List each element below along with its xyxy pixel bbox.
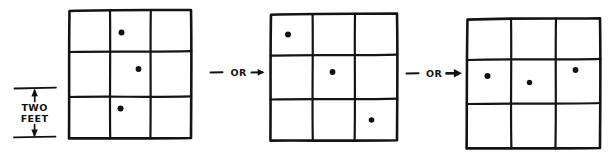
dimension-arrow-up-head <box>31 89 38 97</box>
grid-3-dot-middle-left <box>485 73 491 79</box>
grid-2-dot-center <box>330 69 336 75</box>
grid-3-lines <box>467 18 601 148</box>
grid-3-dot-middle-right <box>573 67 579 73</box>
connector-1-arrow-head <box>258 69 265 76</box>
grid-1-dot-top-middle <box>119 30 125 36</box>
dimension-label-line1: TWO <box>21 102 47 113</box>
grid-1-outer-border <box>69 10 191 138</box>
grid-1-dots <box>118 30 142 112</box>
grid-3 <box>467 18 601 148</box>
dimension-arrow-down-icon <box>31 125 38 138</box>
dimension-label-line2: FEET <box>21 113 49 124</box>
dimension-annotation: TWO FEET <box>14 88 56 138</box>
grid-1-dot-center <box>136 66 142 72</box>
grid-1-hline-1 <box>69 51 191 52</box>
grid-2-hline-2 <box>271 99 398 100</box>
diagram-canvas: TWO FEET OR <box>0 0 614 163</box>
connector-2-label: OR <box>426 68 442 79</box>
grid-1-hline-2 <box>69 96 191 97</box>
grid-2-dot-bottom-right <box>369 117 375 123</box>
grid-3-outer-border <box>467 18 601 148</box>
grid-1 <box>69 10 191 138</box>
grid-3-dot-center <box>527 80 532 85</box>
diagram-illustration: TWO FEET OR <box>0 0 614 163</box>
connector-1-label: OR <box>231 67 247 78</box>
grid-3-dots <box>485 67 579 85</box>
dimension-bottom-tick <box>14 137 56 138</box>
grid-2 <box>270 14 397 141</box>
grid-3-vline-2 <box>555 18 556 148</box>
connector-1-arrow-right-icon <box>252 69 265 76</box>
grid-1-dot-bottom-middle <box>118 106 124 112</box>
dimension-arrow-up-icon <box>31 89 38 102</box>
connector-2-arrow-right-icon <box>447 69 463 78</box>
grid-3-hline-2 <box>467 103 600 104</box>
connector-1: OR <box>211 67 265 78</box>
dimension-arrow-down-head <box>31 129 38 137</box>
connector-2-arrow-head <box>454 69 462 78</box>
grid-2-hline-1 <box>271 55 398 56</box>
grid-2-dot-top-left <box>285 32 291 38</box>
dimension-top-tick <box>15 88 57 89</box>
connector-2: OR <box>407 68 463 79</box>
grid-1-lines <box>69 10 191 138</box>
grid-2-dots <box>285 32 374 123</box>
grid-3-hline-1 <box>467 59 601 60</box>
